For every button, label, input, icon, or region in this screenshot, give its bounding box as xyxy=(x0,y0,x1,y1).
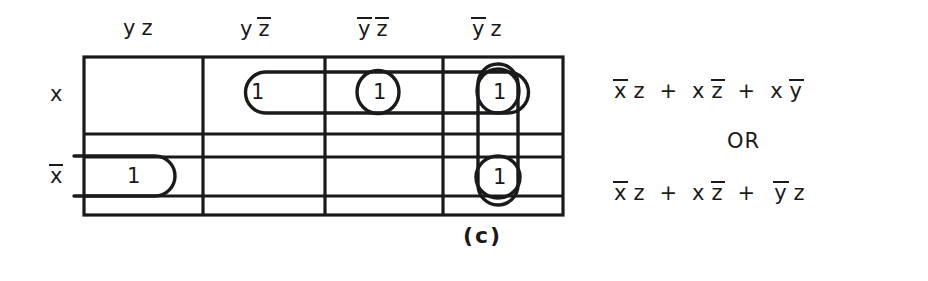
cell-row0-col3: 1 xyxy=(493,82,506,103)
expr1-plus-1: + xyxy=(659,79,678,103)
expr1-y-bar: y xyxy=(790,80,803,102)
cell-row1-col3: 1 xyxy=(493,167,506,188)
expr1-z-bar: z xyxy=(712,80,724,102)
cell-row0-col2: 1 xyxy=(373,82,386,103)
expr2-x-bar: x xyxy=(614,182,627,204)
cell-row1-col0: 1 xyxy=(127,166,140,187)
expr1-x-bar: x xyxy=(614,80,627,102)
kmap-grid-lines xyxy=(84,57,563,215)
expression-second: xz+xz+yz xyxy=(614,182,806,204)
expr2-z-bar: z xyxy=(712,182,724,204)
expr2-z: z xyxy=(633,181,645,205)
expr1-z: z xyxy=(633,79,645,103)
cell-row0-col1: 1 xyxy=(251,82,264,103)
group-bottom-left-wrap xyxy=(74,156,175,196)
expression-first: xz+xz+xy xyxy=(614,80,803,102)
expr1-x2: x xyxy=(770,79,783,103)
expr2-y-bar: y xyxy=(774,182,787,204)
figure-caption: (c) xyxy=(463,225,502,247)
expr2-plus-1: + xyxy=(659,181,678,205)
expr1-x: x xyxy=(692,79,705,103)
expr2-x: x xyxy=(692,181,705,205)
expr2-z2: z xyxy=(794,181,806,205)
expr2-plus-2: + xyxy=(738,181,757,205)
group-top-row-horizontal xyxy=(245,72,528,113)
karnaugh-map-figure: yz yz yz yz x x xyxy=(0,0,928,281)
expr1-plus-2: + xyxy=(738,79,757,103)
expression-connector: OR xyxy=(727,131,760,152)
